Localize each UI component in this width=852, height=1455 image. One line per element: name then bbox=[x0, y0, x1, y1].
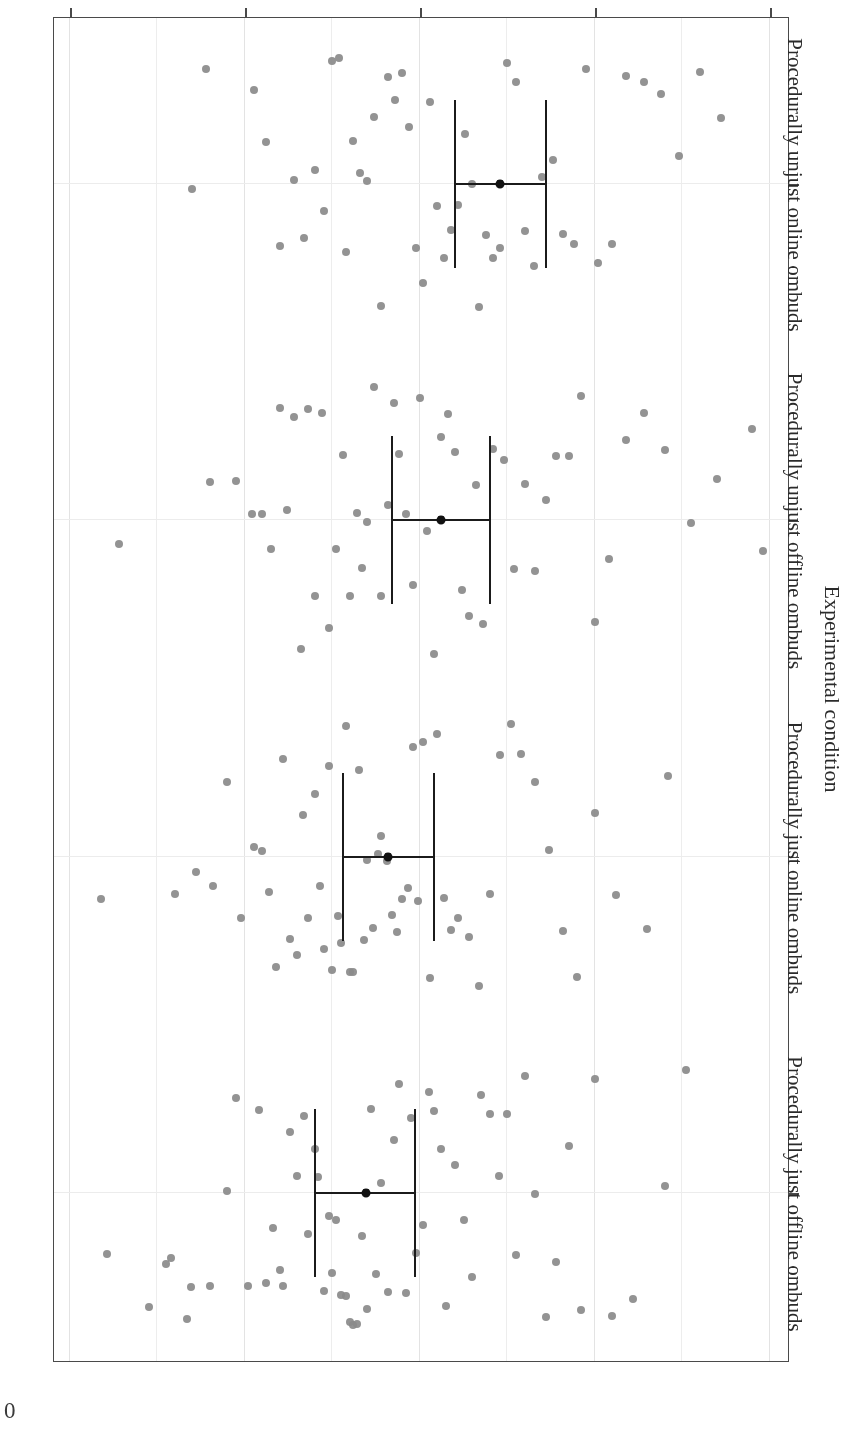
value-axis-tick bbox=[770, 8, 771, 17]
data-point bbox=[280, 755, 288, 763]
data-point bbox=[232, 477, 240, 485]
data-point bbox=[577, 392, 585, 400]
data-point bbox=[458, 586, 466, 594]
data-point bbox=[521, 227, 529, 235]
data-point bbox=[355, 766, 363, 774]
data-point bbox=[425, 1088, 433, 1096]
value-axis-tick bbox=[70, 8, 71, 17]
value-axis-tick bbox=[595, 8, 596, 17]
data-point bbox=[297, 645, 305, 653]
data-point bbox=[570, 240, 578, 248]
data-point bbox=[500, 456, 508, 464]
data-point bbox=[605, 555, 613, 563]
data-point bbox=[504, 59, 512, 67]
data-point bbox=[644, 925, 652, 933]
data-point bbox=[371, 113, 379, 121]
data-point bbox=[276, 404, 284, 412]
data-point bbox=[441, 254, 449, 262]
data-point bbox=[371, 383, 379, 391]
data-point bbox=[441, 894, 449, 902]
data-point bbox=[665, 772, 673, 780]
mean-marker bbox=[384, 852, 393, 861]
data-point bbox=[385, 1288, 393, 1296]
gridline-major bbox=[69, 18, 70, 1361]
data-point bbox=[451, 448, 459, 456]
data-point bbox=[476, 982, 484, 990]
value-axis-tick bbox=[420, 8, 421, 17]
data-point bbox=[395, 450, 403, 458]
data-point bbox=[378, 833, 386, 841]
data-point bbox=[232, 1094, 240, 1102]
data-point bbox=[287, 936, 295, 944]
data-point bbox=[290, 413, 298, 421]
data-point bbox=[595, 259, 603, 267]
data-point bbox=[385, 73, 393, 81]
data-point bbox=[316, 882, 324, 890]
data-point bbox=[238, 914, 246, 922]
data-point bbox=[532, 567, 540, 575]
data-point bbox=[717, 114, 725, 122]
data-point bbox=[103, 1250, 111, 1258]
data-point bbox=[203, 65, 211, 73]
data-point bbox=[472, 481, 480, 489]
data-point bbox=[304, 914, 312, 922]
data-point bbox=[183, 1315, 191, 1323]
data-point bbox=[469, 1273, 477, 1281]
mean-marker bbox=[361, 1188, 370, 1197]
gridline-major bbox=[769, 18, 770, 1361]
value-axis-tick-label: 2 bbox=[66, 0, 77, 3]
data-point bbox=[390, 1136, 398, 1144]
gridline-minor bbox=[157, 18, 158, 1361]
data-point bbox=[353, 1320, 361, 1328]
data-point bbox=[250, 86, 258, 94]
data-point bbox=[542, 496, 550, 504]
data-point bbox=[346, 592, 354, 600]
data-point bbox=[687, 520, 695, 528]
data-point bbox=[187, 1283, 195, 1291]
data-point bbox=[420, 279, 428, 287]
data-point bbox=[504, 1110, 512, 1118]
data-point bbox=[495, 1172, 503, 1180]
data-point bbox=[367, 1105, 375, 1113]
data-point bbox=[497, 751, 505, 759]
data-point bbox=[476, 303, 484, 311]
data-point bbox=[414, 897, 422, 905]
data-point bbox=[210, 882, 218, 890]
category-axis-title: Experimental condition bbox=[819, 586, 845, 793]
data-point bbox=[290, 176, 298, 184]
data-point bbox=[392, 96, 400, 104]
data-point bbox=[206, 478, 214, 486]
data-point bbox=[336, 54, 344, 62]
data-point bbox=[430, 650, 438, 658]
data-point bbox=[574, 973, 582, 981]
data-point bbox=[507, 720, 515, 728]
data-point bbox=[357, 169, 365, 177]
data-point bbox=[320, 207, 328, 215]
data-point bbox=[388, 911, 396, 919]
data-point bbox=[390, 399, 398, 407]
data-point bbox=[661, 446, 669, 454]
data-point bbox=[280, 1282, 288, 1290]
data-point bbox=[420, 1221, 428, 1229]
data-point bbox=[591, 618, 599, 626]
data-point bbox=[623, 72, 631, 80]
data-point bbox=[444, 410, 452, 418]
data-point bbox=[360, 936, 368, 944]
data-point bbox=[192, 868, 200, 876]
data-point bbox=[294, 1172, 302, 1180]
data-point bbox=[350, 968, 358, 976]
data-point bbox=[530, 262, 538, 270]
data-point bbox=[532, 778, 540, 786]
data-point bbox=[427, 974, 435, 982]
data-point bbox=[378, 1179, 386, 1187]
data-point bbox=[399, 895, 407, 903]
data-point bbox=[294, 951, 302, 959]
data-point bbox=[276, 242, 284, 250]
data-point bbox=[560, 230, 568, 238]
data-point bbox=[224, 778, 232, 786]
data-point bbox=[511, 565, 519, 573]
data-point bbox=[542, 1313, 550, 1321]
data-point bbox=[409, 581, 417, 589]
data-point bbox=[416, 394, 424, 402]
data-point bbox=[301, 234, 309, 242]
